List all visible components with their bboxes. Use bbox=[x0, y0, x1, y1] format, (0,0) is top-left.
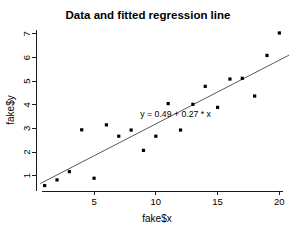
y-tick-label: 4 bbox=[22, 102, 33, 107]
data-point bbox=[191, 103, 194, 106]
data-point bbox=[154, 135, 157, 138]
data-point bbox=[278, 31, 281, 34]
y-tick-label: 1 bbox=[22, 173, 33, 178]
y-tick-label: 6 bbox=[22, 55, 33, 60]
data-point bbox=[204, 85, 207, 88]
data-point bbox=[55, 178, 58, 181]
data-point bbox=[241, 77, 244, 80]
x-tick-label: 15 bbox=[212, 196, 223, 207]
x-axis-title: fake$x bbox=[142, 213, 171, 224]
data-point bbox=[253, 94, 256, 97]
chart-canvas: Data and fitted regression line 5101520 … bbox=[0, 0, 296, 230]
data-point bbox=[68, 170, 71, 173]
data-point bbox=[167, 102, 170, 105]
data-point bbox=[216, 106, 219, 109]
y-axis-title: fake$y bbox=[5, 95, 16, 124]
y-tick-label: 3 bbox=[22, 126, 33, 131]
data-point bbox=[179, 128, 182, 131]
x-tick-label: 5 bbox=[91, 196, 96, 207]
data-point bbox=[117, 135, 120, 138]
data-point bbox=[265, 54, 268, 57]
data-point bbox=[130, 128, 133, 131]
chart-title: Data and fitted regression line bbox=[66, 9, 231, 21]
y-tick-label: 5 bbox=[22, 79, 33, 84]
data-point bbox=[142, 149, 145, 152]
data-point bbox=[105, 123, 108, 126]
data-point bbox=[80, 128, 83, 131]
y-tick-label: 2 bbox=[22, 149, 33, 154]
x-tick-label: 20 bbox=[274, 196, 285, 207]
data-point bbox=[92, 177, 95, 180]
regression-equation-annotation: y = 0.49 + 0.27 * x bbox=[140, 109, 211, 119]
y-tick-label: 7 bbox=[22, 31, 33, 36]
data-point bbox=[43, 184, 46, 187]
regression-plot-figure: Data and fitted regression line 5101520 … bbox=[0, 0, 296, 230]
data-point bbox=[228, 77, 231, 80]
x-tick-label: 10 bbox=[151, 196, 162, 207]
